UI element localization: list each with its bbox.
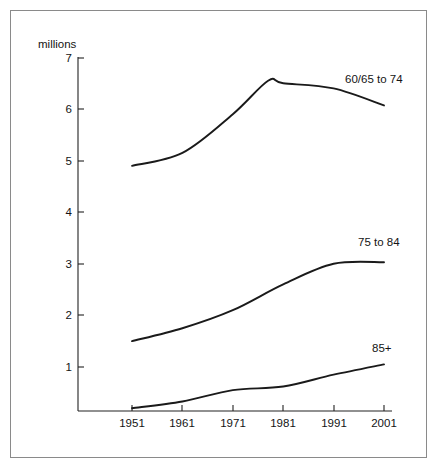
x-tick-label-1981: 1981 (270, 417, 296, 429)
line-chart-canvas: millions 7 6 5 4 3 2 1 1951 1961 (0, 0, 437, 468)
data-curve-75-to-84 (132, 262, 384, 341)
x-tick-label-2001: 2001 (371, 417, 397, 429)
y-tick-label-7: 7 (66, 52, 72, 64)
series-label-60-65-to-74: 60/65 to 74 (345, 73, 403, 85)
x-tick-label-1971: 1971 (220, 417, 246, 429)
x-tick-label-1961: 1961 (169, 417, 195, 429)
y-tick-label-6: 6 (66, 103, 72, 115)
x-axis-ticks: 1951 1961 1971 1981 1991 2001 (119, 405, 397, 429)
x-tick-label-1951: 1951 (119, 417, 145, 429)
y-tick-label-3: 3 (66, 258, 72, 270)
data-curve-60-65-to-74 (132, 79, 384, 166)
y-axis-ticks: 7 6 5 4 3 2 1 (66, 52, 84, 373)
series-label-85-plus: 85+ (372, 342, 392, 354)
y-tick-label-2: 2 (66, 309, 72, 321)
data-curve-85-plus (132, 364, 384, 408)
chart-figure: millions 7 6 5 4 3 2 1 1951 1961 (0, 0, 437, 468)
y-axis-unit-label: millions (38, 38, 77, 50)
x-tick-label-1991: 1991 (321, 417, 347, 429)
y-tick-label-1: 1 (66, 361, 72, 373)
y-tick-label-4: 4 (66, 206, 73, 218)
series-label-75-to-84: 75 to 84 (358, 236, 400, 248)
y-tick-label-5: 5 (66, 155, 72, 167)
